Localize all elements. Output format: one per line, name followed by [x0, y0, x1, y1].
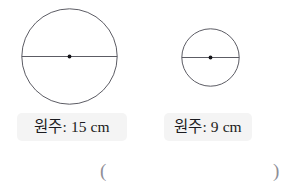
small-circle-center-dot [209, 56, 213, 60]
small-circle-figure [181, 27, 241, 88]
large-circle-diagram [21, 7, 119, 106]
large-circle-figure [21, 7, 119, 106]
answer-open-paren: ( [100, 156, 106, 186]
small-circle-diagram [181, 27, 241, 88]
large-circle-center-dot [68, 55, 72, 59]
answer-row: ( ) [0, 156, 294, 188]
large-circle-circumference-label: 원주: 15 cm [17, 113, 127, 141]
small-circle-circumference-label: 원주: 9 cm [164, 113, 252, 141]
answer-close-paren: ) [273, 156, 279, 186]
worksheet-canvas: 원주: 15 cm 원주: 9 cm ( ) [0, 0, 294, 194]
